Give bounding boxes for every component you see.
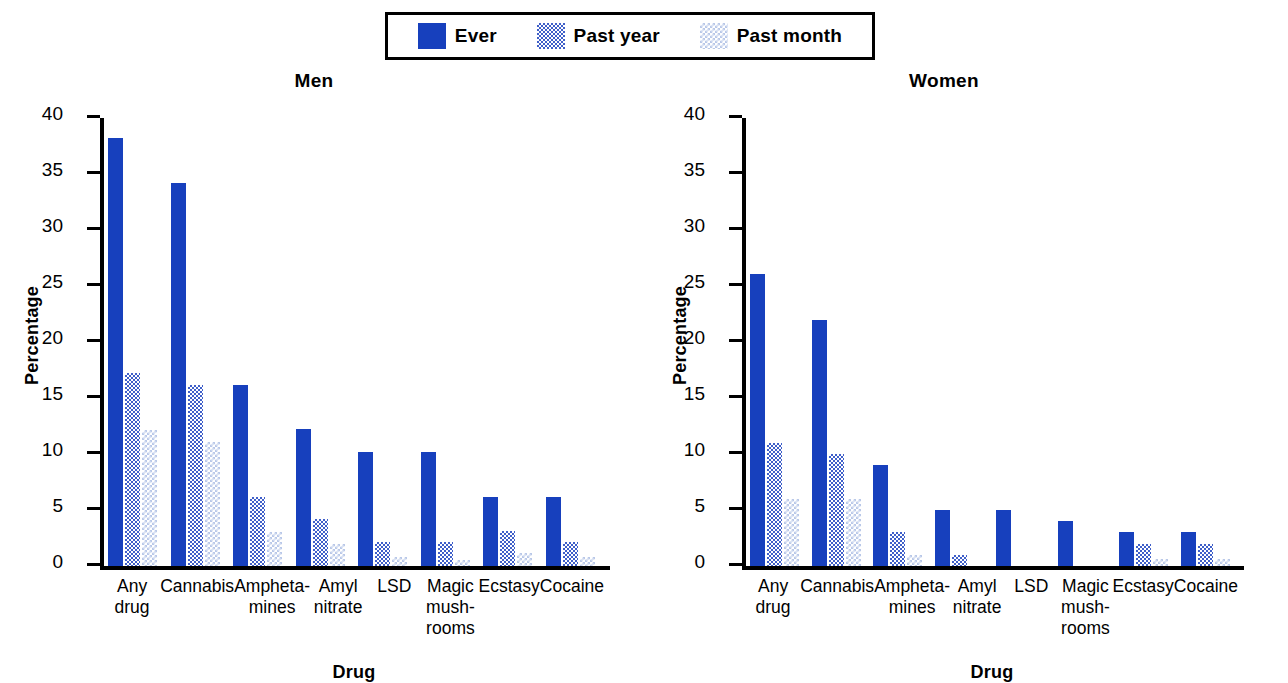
y-tick-men-15: 15 (87, 395, 100, 398)
bar (767, 443, 782, 566)
bar-groups-men (104, 118, 604, 566)
bar (375, 542, 390, 566)
bar (1198, 544, 1213, 566)
legend-label-past-month: Past month (737, 25, 842, 47)
bar (358, 452, 373, 566)
bar (1119, 532, 1134, 566)
x-axis-category-label: Ampheta-mines (234, 574, 310, 639)
y-tick-men-35: 35 (87, 171, 100, 174)
bar-group (1177, 118, 1239, 566)
x-axis-category-label: Any drug (746, 574, 800, 639)
bar (250, 497, 265, 566)
bar (421, 452, 436, 566)
bar-group (229, 118, 292, 566)
bar-group (1054, 118, 1116, 566)
bar (846, 499, 861, 566)
legend-label-ever: Ever (455, 25, 497, 47)
bar (873, 465, 888, 566)
y-tick-men-0: 0 (87, 563, 100, 566)
bar-group (417, 118, 480, 566)
y-tick-label-men-20: 20 (23, 327, 63, 349)
y-tick-women-25: 25 (729, 283, 742, 286)
y-tick-men-30: 30 (87, 227, 100, 230)
bar-group (167, 118, 230, 566)
bar (546, 497, 561, 566)
bar-group (869, 118, 931, 566)
y-tick-label-men-30: 30 (23, 215, 63, 237)
y-tick-women-35: 35 (729, 171, 742, 174)
plot-area-women: 4035302520151050 (746, 118, 1238, 566)
y-tick-men-20: 20 (87, 339, 100, 342)
y-tick-women-0: 0 (729, 563, 742, 566)
chart-legend: Ever Past year Past month (385, 12, 875, 60)
bar (1058, 521, 1073, 566)
panel-title-men: Men (4, 70, 624, 92)
x-axis-category-label: Ecstasy (1113, 574, 1174, 639)
bar (108, 138, 123, 566)
bar-group (746, 118, 808, 566)
bar-group (992, 118, 1054, 566)
y-tick-label-women-10: 10 (665, 439, 705, 461)
bar-group (479, 118, 542, 566)
legend-entry-past-year: Past year (537, 23, 660, 49)
bar (812, 320, 827, 566)
chart-panel-men: Men Percentage 4035302520151050 Any drug… (4, 70, 624, 670)
y-tick-label-men-15: 15 (23, 383, 63, 405)
bar (330, 544, 345, 566)
y-tick-label-men-40: 40 (23, 103, 63, 125)
bar (483, 497, 498, 566)
bar (125, 373, 140, 566)
x-axis-label-men: Drug (104, 662, 604, 683)
y-tick-women-10: 10 (729, 451, 742, 454)
y-tick-men-10: 10 (87, 451, 100, 454)
bar (996, 510, 1011, 566)
bar-group (1115, 118, 1177, 566)
x-axis-category-label: Ampheta-mines (874, 574, 950, 639)
y-tick-women-5: 5 (729, 507, 742, 510)
plot-area-men: 4035302520151050 (104, 118, 604, 566)
bar (171, 183, 186, 566)
y-tick-label-men-5: 5 (23, 495, 63, 517)
bar (392, 557, 407, 566)
x-axis-category-label: Amylnitrate (310, 574, 366, 639)
bar-group (931, 118, 993, 566)
y-tick-label-women-30: 30 (665, 215, 705, 237)
bar (563, 542, 578, 566)
x-axis-category-label: Any drug (104, 574, 160, 639)
chart-panel-women: Women Percentage 4035302520151050 Any dr… (634, 70, 1254, 670)
x-axis-line-men (100, 566, 610, 570)
legend-label-past-year: Past year (574, 25, 660, 47)
x-axis-label-women: Drug (746, 662, 1238, 683)
y-tick-label-women-25: 25 (665, 271, 705, 293)
bar (500, 531, 515, 566)
y-tick-label-women-35: 35 (665, 159, 705, 181)
legend-swatch-past-year-icon (537, 23, 565, 49)
bar (233, 385, 248, 566)
x-axis-category-label: LSD (366, 574, 422, 639)
bar (455, 560, 470, 566)
y-tick-women-20: 20 (729, 339, 742, 342)
x-axis-category-label: Amylnitrate (950, 574, 1004, 639)
bar (580, 557, 595, 566)
x-axis-category-label: Magicmush-rooms (422, 574, 478, 639)
bar (313, 519, 328, 566)
y-tick-label-women-20: 20 (665, 327, 705, 349)
x-axis-category-label: Cannabis (160, 574, 234, 639)
y-tick-label-men-10: 10 (23, 439, 63, 461)
legend-entry-past-month: Past month (700, 23, 842, 49)
bar (188, 385, 203, 566)
bar (1153, 559, 1168, 566)
y-tick-label-women-40: 40 (665, 103, 705, 125)
bar (205, 442, 220, 566)
bar (890, 532, 905, 566)
bar-group (542, 118, 605, 566)
y-tick-label-women-0: 0 (665, 551, 705, 573)
y-tick-label-men-35: 35 (23, 159, 63, 181)
y-tick-men-40: 40 (87, 115, 100, 118)
bar (935, 510, 950, 566)
x-axis-categories-women: Any drugCannabisAmpheta-minesAmylnitrate… (746, 574, 1238, 639)
bar-group (104, 118, 167, 566)
bar-group (808, 118, 870, 566)
y-tick-women-15: 15 (729, 395, 742, 398)
bar (296, 429, 311, 566)
